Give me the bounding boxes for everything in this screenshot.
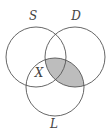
- label-d: D: [70, 9, 81, 23]
- venn-diagram: S D L X: [0, 0, 111, 133]
- label-s: S: [29, 9, 37, 23]
- label-x: X: [34, 66, 44, 80]
- label-l: L: [49, 117, 58, 131]
